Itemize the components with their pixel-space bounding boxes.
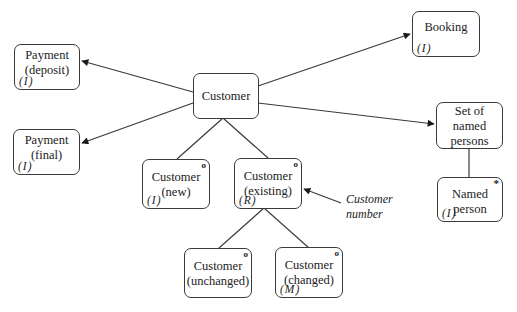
edge-customer-customer-existing	[223, 118, 268, 158]
node-payment-deposit[interactable]: Payment (deposit) (I)	[14, 44, 80, 90]
node-tag: (M)	[280, 283, 300, 296]
node-label: Payment (deposit)	[15, 48, 79, 78]
node-tag: (I)	[147, 194, 162, 207]
optional-circle-icon: o	[335, 248, 340, 258]
node-customer-changed[interactable]: o Customer (changed) (M)	[275, 247, 343, 298]
edge-customer-customer-new	[177, 118, 223, 159]
edge-customer-payment-deposit	[82, 61, 193, 92]
node-payment-final[interactable]: Payment (final) (I)	[13, 129, 80, 175]
node-label: Booking	[413, 20, 479, 35]
node-tag: (I)	[442, 207, 457, 220]
edge-existing-unchanged	[219, 208, 264, 248]
node-tag: (I)	[417, 42, 432, 55]
node-customer-existing[interactable]: o Customer (existing) (R)	[234, 158, 302, 209]
edge-customer-booking	[258, 34, 410, 86]
node-tag: (R)	[239, 194, 257, 207]
node-named-person[interactable]: * Named person (I)	[437, 177, 503, 222]
node-label: Set of named persons	[437, 104, 502, 149]
node-booking[interactable]: Booking (I)	[412, 11, 480, 57]
node-label: Customer (unchanged)	[185, 259, 251, 289]
edge-customer-set-named-persons	[258, 103, 434, 124]
node-tag: (I)	[19, 75, 34, 88]
node-set-named-persons[interactable]: Set of named persons	[436, 102, 503, 149]
node-customer-new[interactable]: o Customer (new) (I)	[142, 159, 210, 209]
node-tag: (I)	[18, 160, 33, 173]
node-label: Payment (final)	[14, 133, 79, 163]
optional-circle-icon: o	[294, 159, 299, 169]
node-customer[interactable]: Customer	[193, 73, 259, 119]
node-label: Customer	[194, 89, 258, 104]
node-customer-unchanged[interactable]: o Customer (unchanged)	[184, 248, 252, 298]
optional-circle-icon: o	[244, 249, 249, 259]
annotation-customer-number: Customer number	[346, 192, 393, 222]
edge-existing-changed	[264, 208, 309, 248]
optional-circle-icon: o	[202, 160, 207, 170]
edge-customer-payment-final	[82, 103, 193, 143]
edge-customer-number-existing	[304, 189, 341, 203]
